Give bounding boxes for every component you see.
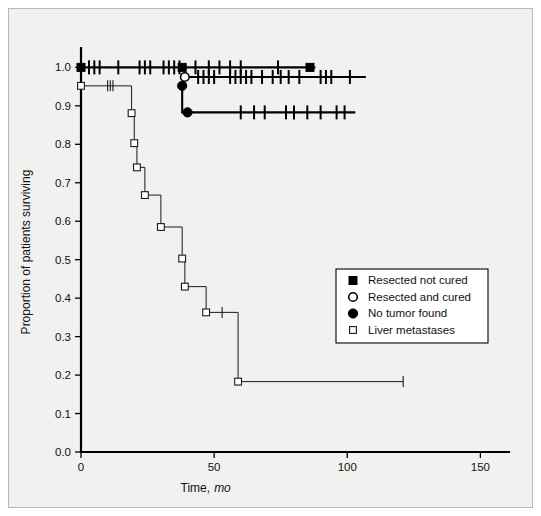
axis-titles: Time,moProportion of patients surviving: [19, 170, 231, 495]
marker-open-circle: [349, 293, 358, 302]
marker-open-square: [203, 309, 210, 316]
marker-filled-square: [306, 63, 314, 71]
x-axis-title: Time,: [181, 481, 211, 495]
marker-filled-square: [349, 277, 357, 285]
marker-filled-circle: [183, 108, 192, 117]
legend-label-resected-and-cured: Resected and cured: [368, 291, 471, 303]
marker-filled-circle: [178, 81, 187, 90]
y-tick-label: 0.7: [55, 177, 71, 189]
marker-open-square: [78, 82, 85, 89]
y-tick-label: 0.0: [55, 446, 71, 458]
y-tick-label: 0.6: [55, 215, 71, 227]
legend-label-liver-metastases: Liver metastases: [368, 324, 455, 336]
marker-open-square: [131, 140, 138, 147]
y-tick-label: 0.4: [55, 292, 72, 304]
x-tick-label: 150: [471, 461, 490, 473]
y-tick-label: 0.8: [55, 138, 71, 150]
y-axis-ticks: 0.00.10.20.30.40.50.60.70.80.91.0: [55, 61, 81, 458]
marker-open-square: [142, 192, 149, 199]
legend-label-resected-not-cured: Resected not cured: [368, 274, 468, 286]
marker-open-square: [350, 327, 357, 334]
y-tick-label: 1.0: [55, 61, 71, 73]
y-tick-label: 0.5: [55, 254, 71, 266]
marker-open-square: [128, 110, 135, 117]
x-tick-label: 100: [338, 461, 357, 473]
marker-filled-circle: [348, 309, 357, 318]
y-tick-label: 0.9: [55, 100, 71, 112]
legend-label-no-tumor-found: No tumor found: [368, 307, 447, 319]
x-tick-label: 0: [78, 461, 84, 473]
marker-filled-square: [77, 63, 85, 71]
chart-legend: Resected not curedResected and curedNo t…: [336, 269, 488, 343]
marker-open-square: [134, 164, 141, 171]
curve-no-tumor-found: [182, 86, 355, 113]
marker-open-square: [181, 283, 188, 290]
marker-open-square: [157, 224, 164, 231]
y-axis-title: Proportion of patients surviving: [19, 170, 33, 335]
figure-root: 050100150 0.00.10.20.30.40.50.60.70.80.9…: [0, 0, 541, 516]
y-tick-label: 0.3: [55, 331, 71, 343]
x-axis-ticks: 050100150: [78, 452, 490, 473]
marker-open-square: [235, 378, 242, 385]
y-tick-label: 0.2: [55, 369, 71, 381]
marker-open-square: [179, 255, 186, 262]
survival-chart: 050100150 0.00.10.20.30.40.50.60.70.80.9…: [0, 0, 541, 516]
x-tick-label: 50: [208, 461, 221, 473]
marker-open-circle: [181, 73, 190, 82]
y-tick-label: 0.1: [55, 408, 71, 420]
marker-filled-square: [178, 63, 186, 71]
x-axis-title-unit: mo: [214, 481, 231, 495]
